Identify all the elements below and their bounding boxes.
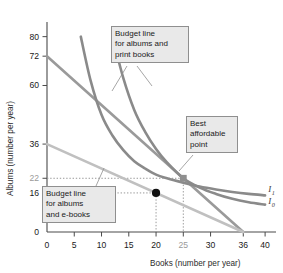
chart-container: 0162236607280 0510152025303640 I1I0 Albu… xyxy=(0,0,283,273)
leader-best-point xyxy=(179,155,193,171)
y-tick-label-0: 0 xyxy=(34,227,39,237)
y-tick-label-16: 16 xyxy=(29,188,39,198)
x-tick-label-30: 30 xyxy=(206,240,216,250)
callout-best-affordable-point: Best affordable point xyxy=(186,116,238,153)
callout-budget-line-print-books: Budget line for albums and print books xyxy=(111,26,189,63)
x-tick-label-20: 20 xyxy=(151,240,161,250)
callout-budget-line-ebooks: Budget line for albums and e-books xyxy=(42,186,116,223)
x-tick-label-25: 25 xyxy=(179,240,189,250)
y-tick-label-80: 80 xyxy=(29,32,39,42)
y-tick-label-72: 72 xyxy=(29,51,39,61)
leader-print-books-2 xyxy=(137,66,152,86)
marker-best-affordable-point xyxy=(152,189,160,197)
x-tick-label-36: 36 xyxy=(239,240,249,250)
marker-tangency-point-i1 xyxy=(180,175,187,182)
x-tick-label-15: 15 xyxy=(124,240,134,250)
y-tick-label-60: 60 xyxy=(29,80,39,90)
curve-label-I0: I0 xyxy=(267,196,275,207)
x-tick-label-0: 0 xyxy=(45,240,50,250)
y-tick-label-36: 36 xyxy=(29,139,39,149)
x-tick-group: 0510152025303640 xyxy=(45,232,270,250)
y-tick-label-22: 22 xyxy=(29,173,39,183)
x-axis-title: Books (number per year) xyxy=(150,259,241,268)
x-tick-label-10: 10 xyxy=(97,240,107,250)
x-tick-label-40: 40 xyxy=(260,240,270,250)
curve-label-I1: I1 xyxy=(267,184,274,195)
curve-label-group: I1I0 xyxy=(267,184,275,207)
x-tick-label-5: 5 xyxy=(72,240,77,250)
y-axis-title: Albums (number per year) xyxy=(6,101,15,196)
leader-ebooks xyxy=(96,168,104,186)
